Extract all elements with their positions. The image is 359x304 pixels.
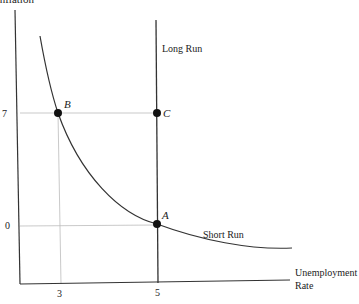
guide-line-x3: [58, 113, 61, 284]
point-b-marker: [54, 109, 62, 117]
point-c-label: C: [163, 107, 171, 119]
y-tick-0: 0: [5, 220, 10, 231]
long-run-line: [156, 20, 158, 283]
x-axis-label-line2: Rate: [295, 280, 314, 291]
point-b-label: B: [64, 98, 71, 110]
x-axis-label-line1: Unemployment: [295, 267, 357, 278]
long-run-label: Long Run: [162, 43, 202, 54]
y-axis: [15, 10, 20, 284]
x-tick-5: 5: [155, 287, 160, 298]
point-a-marker: [153, 220, 161, 228]
x-tick-3: 3: [57, 288, 62, 299]
short-run-label: Short Run: [203, 229, 244, 240]
x-axis: [20, 280, 290, 284]
point-a-label: A: [161, 209, 169, 221]
point-c-marker: [153, 109, 161, 117]
y-tick-7: 7: [2, 108, 7, 119]
guide-line-y0: [20, 225, 157, 226]
y-axis-label: Inflation: [0, 0, 34, 5]
phillips-curve-chart: Inflation B C A Long Run Short Run 7 0 3…: [0, 0, 359, 304]
